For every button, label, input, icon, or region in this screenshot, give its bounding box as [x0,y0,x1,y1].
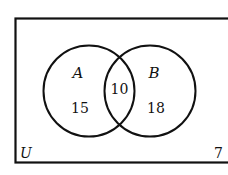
outside-count: 7 [214,145,223,161]
set-a-only-count: 15 [71,100,89,116]
intersection-count: 10 [111,81,129,97]
venn-diagram: A B 10 15 18 U 7 [0,0,228,175]
universe-label: U [20,145,33,161]
set-b-label: B [147,64,159,82]
set-b-only-count: 18 [147,100,165,116]
set-a-label: A [71,64,84,82]
